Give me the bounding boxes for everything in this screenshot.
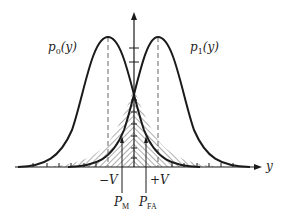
plus-v-label: +V [150, 174, 169, 186]
miss-probability-label: PM [114, 196, 129, 211]
p1-label: p1(y) [190, 41, 219, 56]
y-axis-arrow-icon [131, 12, 137, 20]
diagram-canvas [0, 0, 286, 217]
p0-label: p0(y) [48, 41, 77, 56]
gaussian-detection-diagram: p0(y) p1(y) y −V +V PM PFA [0, 0, 286, 217]
x-axis-label: y [266, 160, 273, 172]
false-alarm-probability-label: PFA [139, 196, 157, 211]
false-alarm-region-hatch [134, 88, 228, 167]
minus-v-label: −V [99, 174, 118, 186]
x-axis-arrow-icon [254, 164, 262, 170]
